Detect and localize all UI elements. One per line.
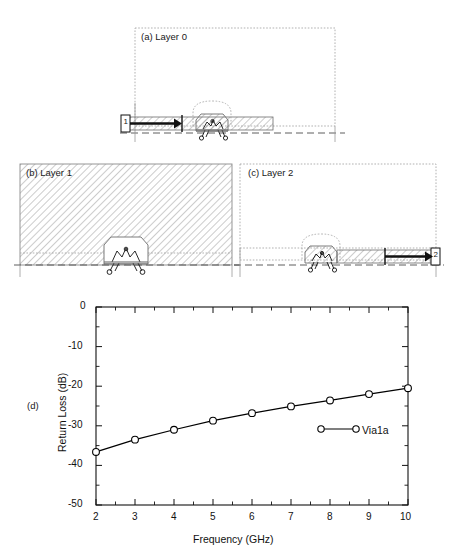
x-tick-label: 3 <box>132 511 138 522</box>
x-tick-label: 9 <box>366 511 372 522</box>
legend-label-via1a: Via1a <box>362 424 389 436</box>
y-tick-label: 0 <box>80 300 86 311</box>
figure-root: (a) Layer 0 1 (b) Layer 1 <box>0 0 461 558</box>
y-tick-label: -10 <box>68 340 82 351</box>
x-tick-label: 10 <box>400 511 411 522</box>
series-marker <box>93 449 100 456</box>
series-marker <box>366 391 373 398</box>
series-line-Via1a <box>96 388 408 452</box>
x-tick-label: 2 <box>93 511 99 522</box>
series-marker <box>210 417 217 424</box>
series-marker <box>327 397 334 404</box>
y-tick-label: -20 <box>68 379 82 390</box>
x-tick-label: 5 <box>210 511 216 522</box>
series-marker <box>249 410 256 417</box>
y-tick-label: -30 <box>68 419 82 430</box>
x-tick-label: 8 <box>327 511 333 522</box>
legend-marker-left <box>318 426 324 432</box>
x-tick-label: 7 <box>288 511 294 522</box>
series-marker <box>405 385 412 392</box>
chart-plot <box>0 0 461 558</box>
chart-frame <box>96 307 408 505</box>
series-marker <box>132 436 139 443</box>
y-tick-label: -40 <box>68 458 82 469</box>
series-marker <box>288 403 295 410</box>
series-marker <box>171 426 178 433</box>
x-tick-label: 4 <box>171 511 177 522</box>
legend-marker-right <box>353 426 359 432</box>
y-tick-label: -50 <box>68 498 82 509</box>
x-tick-label: 6 <box>249 511 255 522</box>
